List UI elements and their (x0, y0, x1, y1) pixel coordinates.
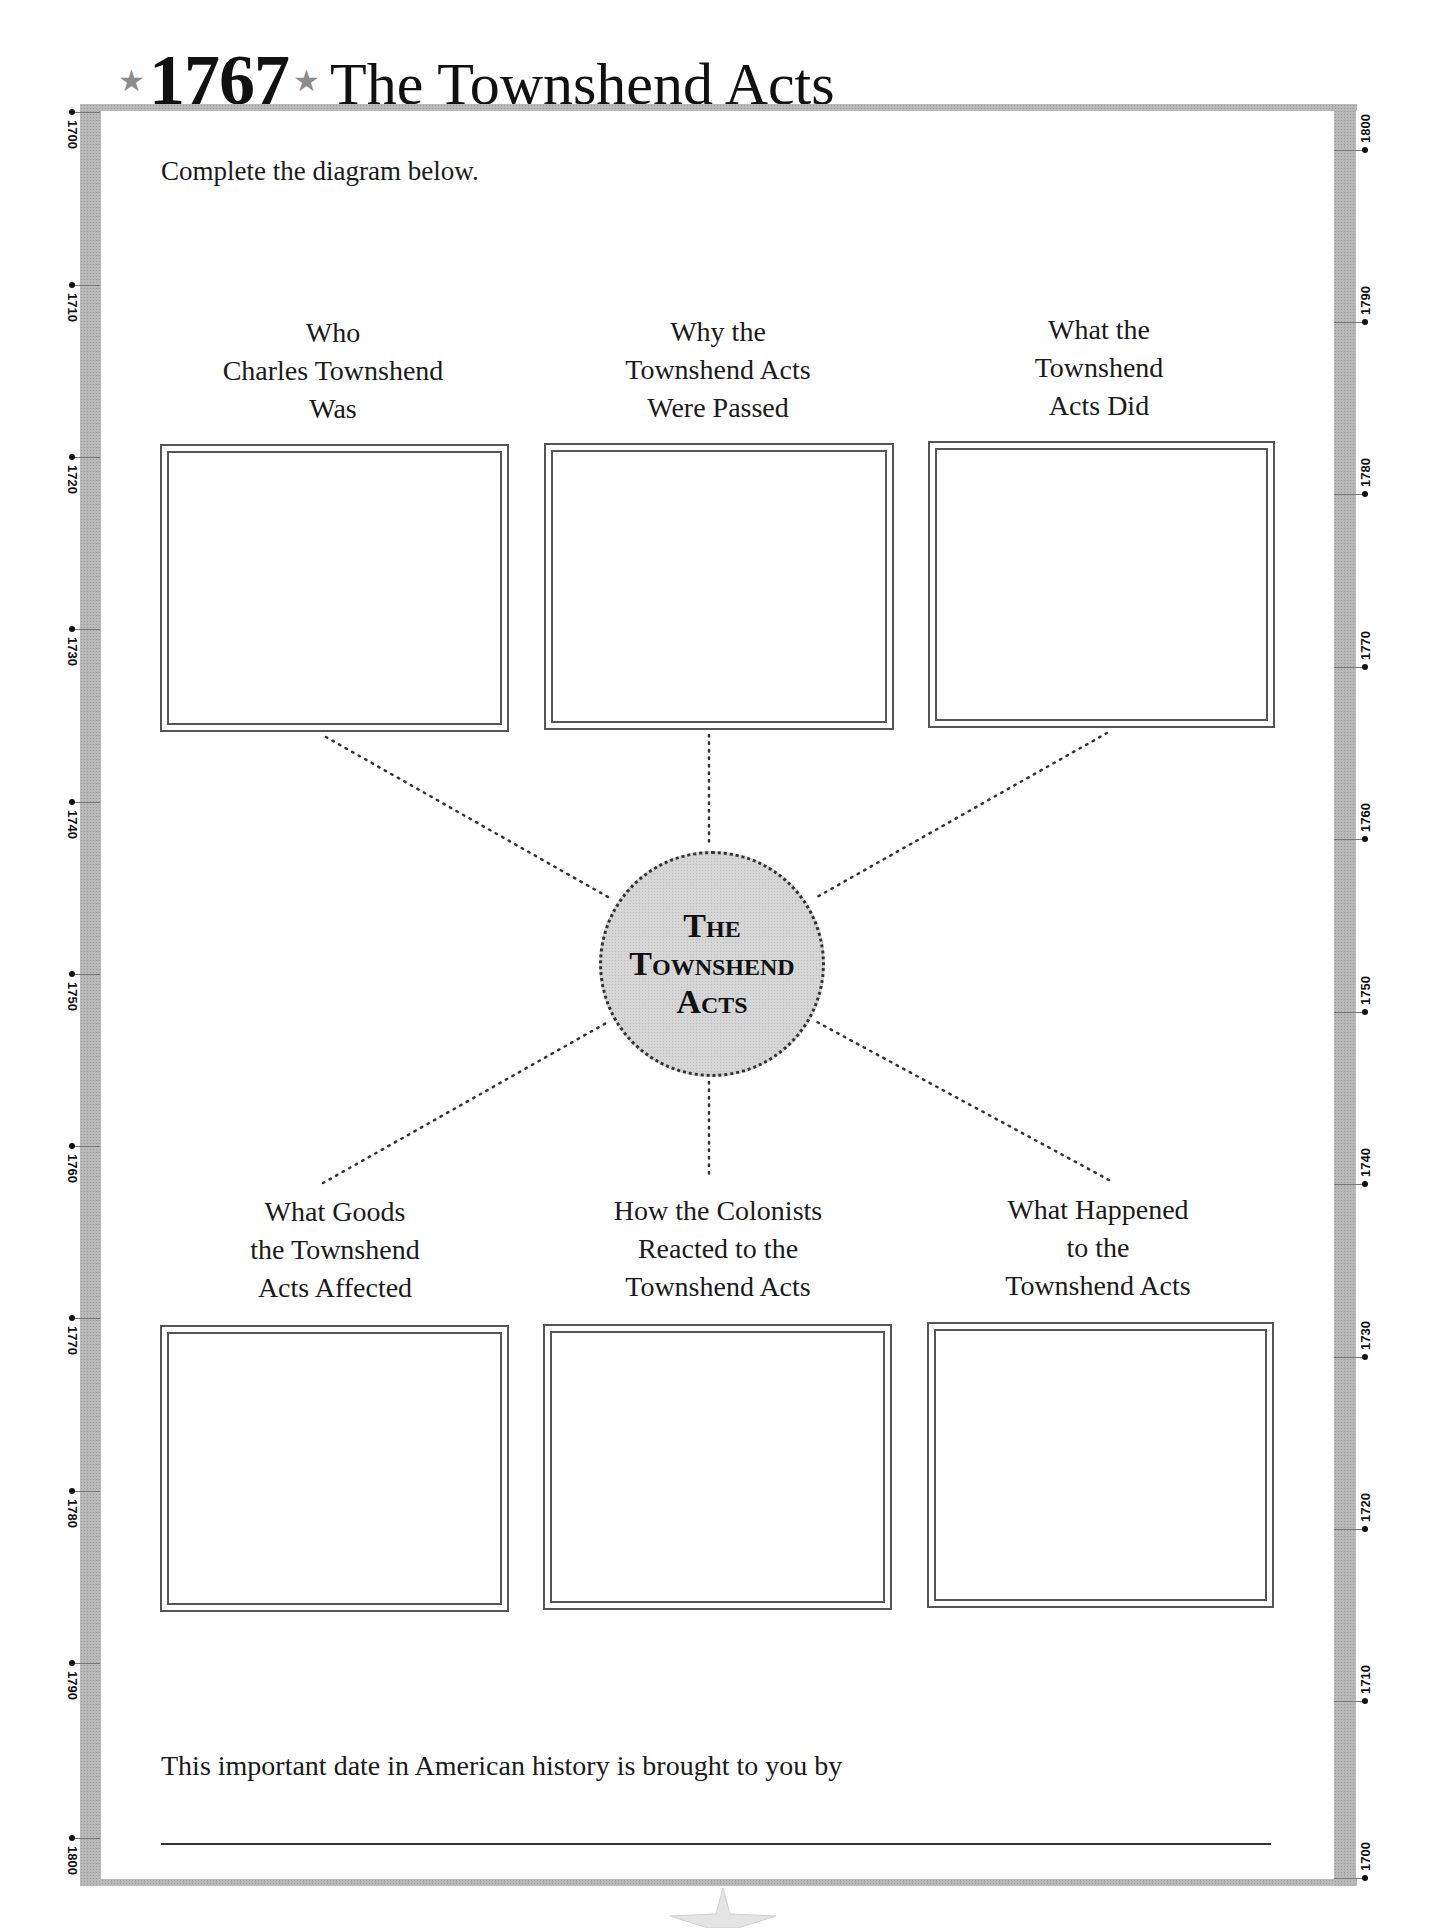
label-line: Who (153, 314, 513, 352)
label-line: Acts Affected (155, 1269, 515, 1307)
box-label-who: Who Charles Townshend Was (153, 314, 513, 428)
answer-box-inner[interactable] (167, 451, 502, 725)
footer-credit-text: This important date in American history … (161, 1750, 842, 1782)
star-logo-icon (668, 1888, 778, 1928)
connector-line (817, 1022, 1109, 1180)
answer-box-reaction[interactable] (543, 1324, 892, 1610)
answer-box-inner[interactable] (167, 1332, 502, 1605)
answer-box-what-did[interactable] (928, 441, 1275, 728)
label-line: Townshend Acts (918, 1267, 1278, 1305)
box-label-why: Why the Townshend Acts Were Passed (538, 313, 898, 427)
answer-box-inner[interactable] (551, 450, 887, 723)
label-line: What Happened (918, 1191, 1278, 1229)
label-line: Townshend Acts (538, 351, 898, 389)
label-line: Reacted to the (538, 1230, 898, 1268)
center-topic-line: The (683, 907, 740, 945)
center-topic-line: Acts (676, 983, 747, 1021)
answer-box-inner[interactable] (934, 1329, 1267, 1601)
label-line: the Townshend (155, 1231, 515, 1269)
label-line: Were Passed (538, 389, 898, 427)
center-topic-line: Townshend (629, 945, 794, 983)
connector-line (323, 1022, 608, 1183)
answer-box-inner[interactable] (935, 448, 1268, 721)
answer-box-why[interactable] (544, 443, 894, 730)
label-line: to the (918, 1229, 1278, 1267)
label-line: What the (919, 311, 1279, 349)
label-line: Townshend Acts (538, 1268, 898, 1306)
box-label-what-did: What the Townshend Acts Did (919, 311, 1279, 425)
label-line: Acts Did (919, 387, 1279, 425)
box-label-outcome: What Happened to the Townshend Acts (918, 1191, 1278, 1305)
answer-box-goods[interactable] (160, 1325, 509, 1612)
signature-line[interactable] (161, 1843, 1271, 1845)
label-line: Townshend (919, 349, 1279, 387)
answer-box-outcome[interactable] (927, 1322, 1274, 1608)
answer-box-inner[interactable] (550, 1331, 885, 1603)
label-line: Charles Townshend (153, 352, 513, 390)
label-line: What Goods (155, 1193, 515, 1231)
center-topic-circle: The Townshend Acts (599, 851, 825, 1077)
connector-line (817, 733, 1107, 897)
label-line: How the Colonists (538, 1192, 898, 1230)
connector-line (326, 737, 608, 897)
label-line: Was (153, 390, 513, 428)
label-line: Why the (538, 313, 898, 351)
box-label-reaction: How the Colonists Reacted to the Townshe… (538, 1192, 898, 1306)
box-label-goods: What Goods the Townshend Acts Affected (155, 1193, 515, 1307)
answer-box-who[interactable] (160, 444, 509, 732)
